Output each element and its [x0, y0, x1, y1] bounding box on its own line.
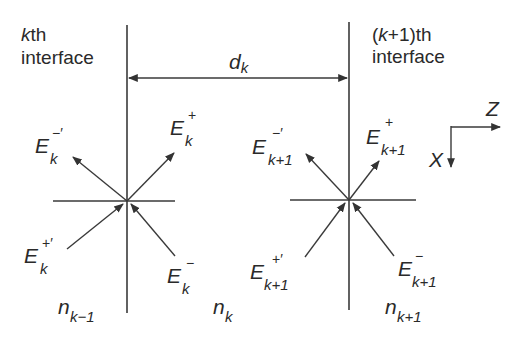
svg-text:−: −: [186, 255, 194, 271]
label-n-k-plus-1: n k+1: [385, 295, 422, 325]
label-n-k: n k: [213, 295, 234, 325]
svg-text:k: k: [185, 132, 194, 149]
svg-text:E: E: [398, 257, 413, 280]
label-E-k1-minus: E k+1 −: [398, 248, 437, 290]
label-E-k-plus: E k +: [170, 107, 196, 149]
svg-text:n: n: [385, 295, 397, 318]
svg-text:E: E: [24, 244, 39, 267]
label-E-k1-minus-prime: E k+1 −′: [252, 125, 293, 168]
svg-text:k: k: [225, 308, 234, 325]
arrow-E-k1-plus-prime: [305, 203, 345, 257]
label-E-k-minus: E k −: [167, 255, 194, 297]
svg-text:n: n: [213, 295, 225, 318]
kth-interface-label-line2: interface: [21, 47, 94, 68]
svg-text:E: E: [167, 264, 182, 287]
svg-text:E: E: [170, 116, 185, 139]
x-axis-label: X: [428, 148, 444, 171]
svg-text:k: k: [50, 150, 59, 167]
svg-text:+′: +′: [42, 235, 53, 251]
svg-text:k: k: [40, 260, 49, 277]
svg-text:E: E: [35, 134, 50, 157]
kth-interface-label: kth: [21, 24, 46, 45]
svg-text:+′: +′: [272, 251, 283, 267]
svg-text:n: n: [58, 295, 70, 318]
svg-text:E: E: [252, 135, 267, 158]
multilayer-interface-diagram: kth interface (k+1)th interface dk Z X E…: [0, 0, 527, 345]
svg-text:E: E: [366, 125, 381, 148]
arrow-E-k-minus-prime: [73, 157, 127, 201]
label-E-k1-plus-prime: E k+1 +′: [250, 251, 289, 293]
svg-text:k+1: k+1: [412, 273, 437, 290]
svg-text:E: E: [250, 260, 265, 283]
arrow-E-k-minus: [131, 204, 175, 256]
arrow-E-k1-minus: [353, 203, 394, 256]
z-axis-label: Z: [485, 97, 500, 120]
arrow-E-k1-plus: [349, 161, 379, 200]
svg-text:k+1: k+1: [264, 276, 289, 293]
svg-text:k+1: k+1: [381, 141, 406, 158]
svg-text:k+1: k+1: [268, 151, 293, 168]
arrow-E-k-plus: [127, 153, 174, 201]
label-E-k-minus-prime: E k −′: [35, 125, 63, 167]
label-E-k1-plus: E k+1 +: [366, 114, 406, 158]
svg-text:+: +: [188, 107, 196, 123]
svg-text:k: k: [182, 280, 191, 297]
svg-text:k−1: k−1: [70, 308, 95, 325]
label-E-k-plus-prime: E k +′: [24, 235, 53, 277]
k1th-interface-label: (k+1)th: [372, 24, 432, 45]
svg-text:+: +: [385, 114, 393, 130]
k1th-interface-label-line2: interface: [372, 46, 445, 67]
thickness-label: dk: [229, 50, 250, 76]
arrow-E-k-plus-prime: [67, 204, 123, 249]
svg-text:−′: −′: [52, 125, 63, 141]
svg-text:k+1: k+1: [397, 308, 422, 325]
arrow-E-k1-minus-prime: [306, 154, 349, 200]
svg-text:−′: −′: [272, 125, 283, 141]
label-n-k-minus-1: n k−1: [58, 295, 95, 325]
svg-text:−: −: [415, 248, 423, 264]
